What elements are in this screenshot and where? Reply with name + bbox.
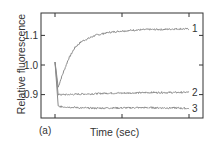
series-label-2: 2 <box>192 87 198 98</box>
series-label-3: 3 <box>192 103 198 114</box>
y-axis-label: Relative fluorescence <box>15 9 27 119</box>
series-line-1 <box>55 28 189 87</box>
series-labels: 123 <box>192 23 198 114</box>
series-line-2 <box>55 62 189 95</box>
series-line-3 <box>55 62 189 109</box>
series-label-1: 1 <box>192 23 198 34</box>
panel-label: (a) <box>39 125 51 136</box>
data-series <box>55 28 189 109</box>
x-axis-label: Time (sec) <box>90 126 139 138</box>
